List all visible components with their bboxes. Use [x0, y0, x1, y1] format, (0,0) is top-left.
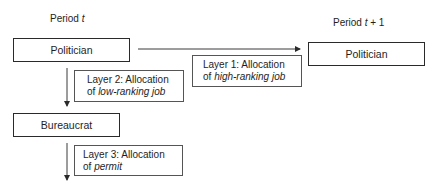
node-label: Politician: [50, 44, 92, 56]
layer-prefix: of: [83, 161, 94, 172]
bureaucrat-box: Bureaucrat: [13, 113, 120, 137]
layer-1-note: Layer 1: Allocation of high-ranking job: [192, 55, 302, 87]
connector-arrows: [0, 0, 434, 196]
period-prefix: Period: [333, 17, 365, 28]
period-t1-label: Period t + 1: [333, 17, 384, 28]
layer-prefix: of: [203, 71, 214, 82]
layer-item: high-ranking job: [214, 71, 285, 82]
period-suffix: + 1: [367, 17, 384, 28]
politician-t1-box: Politician: [308, 42, 425, 66]
node-label: Bureaucrat: [41, 119, 92, 131]
layer-title: Layer 3: Allocation: [83, 149, 182, 161]
layer-title: Layer 1: Allocation: [203, 59, 301, 71]
politician-t-box: Politician: [13, 38, 130, 62]
period-t-label: Period t: [50, 13, 84, 24]
layer-item: low-ranking job: [98, 86, 165, 97]
layer-prefix: of: [87, 86, 98, 97]
layer-2-note: Layer 2: Allocation of low-ranking job: [74, 70, 184, 102]
node-label: Politician: [345, 48, 387, 60]
layer-3-note: Layer 3: Allocation of permit: [74, 145, 183, 176]
layer-title: Layer 2: Allocation: [87, 74, 183, 86]
period-var: t: [82, 13, 85, 24]
period-prefix: Period: [50, 13, 82, 24]
layer-item: permit: [94, 161, 122, 172]
